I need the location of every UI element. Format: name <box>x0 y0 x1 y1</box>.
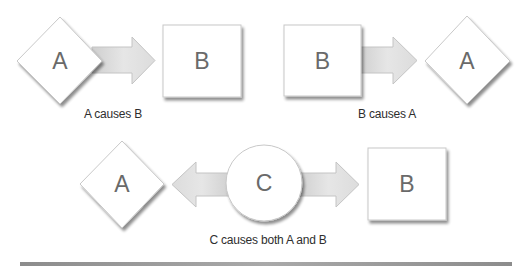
node-a-label: A <box>52 48 68 74</box>
caption-b-causes-a: B causes A <box>358 107 416 121</box>
group-b-causes-a: B A B causes A <box>284 16 510 121</box>
group-c-causes-both: A C B C causes both A and B <box>80 141 446 247</box>
caption-c-causes-both: C causes both A and B <box>209 233 326 247</box>
node-b-label: B <box>315 48 330 74</box>
node-a-label: A <box>459 48 475 74</box>
caption-a-causes-b: A causes B <box>84 107 142 121</box>
node-b-label: B <box>399 171 414 197</box>
node-c-label: C <box>256 170 273 196</box>
bottom-divider <box>20 262 512 266</box>
group-a-causes-b: A B A causes B <box>17 17 241 121</box>
arrow-right-icon <box>358 37 417 84</box>
node-a-label: A <box>114 171 130 197</box>
arrow-right-icon <box>298 162 359 207</box>
arrow-left-icon <box>172 162 232 207</box>
node-b-label: B <box>194 48 209 74</box>
